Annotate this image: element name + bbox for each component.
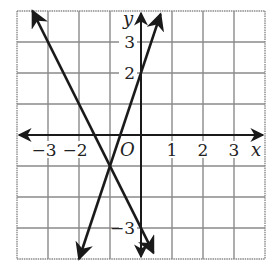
y-tick-label: 2: [124, 63, 135, 83]
y-axis-label: y: [122, 8, 134, 29]
x-tick-label: 3: [229, 140, 240, 160]
y-tick-label: −3: [110, 218, 135, 238]
x-tick-label: −2: [62, 140, 87, 160]
x-tick-label: 1: [167, 140, 178, 160]
x-tick-label: −3: [31, 140, 56, 160]
y-tick-label: 3: [124, 32, 135, 52]
coordinate-graph: −3−212332−3 x y O: [0, 0, 270, 265]
x-axis-label: x: [251, 139, 261, 160]
x-tick-label: 2: [198, 140, 209, 160]
origin-label: O: [120, 139, 135, 160]
axes: [19, 13, 263, 257]
